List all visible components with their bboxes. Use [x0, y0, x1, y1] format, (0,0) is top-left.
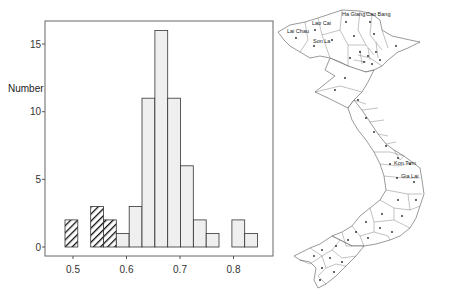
map-outline — [278, 10, 424, 288]
x-tick-label: 0.8 — [227, 264, 241, 275]
province-label: Lao Cai — [312, 20, 331, 26]
histogram-bars — [65, 31, 258, 248]
x-tick-label: 0.6 — [120, 264, 134, 275]
province-label: Ha Giang — [342, 11, 365, 17]
histogram-bar — [181, 166, 194, 247]
histogram-bar — [142, 98, 155, 247]
histogram-chart: 051015 0.50.60.70.8 Number — [0, 0, 275, 292]
y-tick-label: 15 — [30, 39, 42, 50]
province-label: Gia Lai — [401, 173, 418, 179]
province-label: Lai Chau — [287, 28, 309, 34]
histogram-bar — [129, 206, 142, 247]
histogram-bar — [193, 220, 206, 247]
histogram-bar — [91, 206, 104, 247]
histogram-bar — [245, 234, 258, 248]
x-tick-label: 0.7 — [173, 264, 187, 275]
histogram-bar — [65, 220, 78, 247]
histogram-bar — [206, 234, 219, 248]
x-tick-label: 0.5 — [66, 264, 80, 275]
vietnam-province-map: Ha GiangCao BangLai ChauLao CaiSon LaKon… — [270, 0, 454, 292]
y-tick-label: 10 — [30, 106, 42, 117]
y-tick-label: 5 — [35, 174, 41, 185]
y-axis-title: Number — [8, 83, 44, 94]
province-label: Cao Bang — [366, 11, 390, 17]
y-tick-label: 0 — [35, 242, 41, 253]
histogram-bar — [104, 220, 117, 247]
province-label: Kon Tum — [394, 160, 416, 166]
histogram-bar — [168, 98, 181, 247]
histogram-bar — [116, 234, 129, 248]
histogram-bar — [232, 220, 245, 247]
x-axis: 0.50.60.70.8 — [66, 256, 241, 275]
histogram-bar — [155, 31, 168, 248]
province-label: Son La — [313, 38, 331, 44]
y-axis: 051015 — [30, 39, 45, 253]
